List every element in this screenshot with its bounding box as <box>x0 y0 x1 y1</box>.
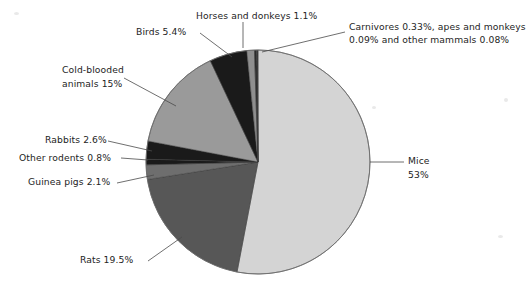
slice-label-horses-and-donkeys: Horses and donkeys 1.1% <box>196 10 317 22</box>
slice-label-other-rodents: Other rodents 0.8% <box>19 152 111 164</box>
slice-label-guinea-pigs: Guinea pigs 2.1% <box>28 176 110 188</box>
slice-label-cold-blooded-line2: animals 15% <box>62 78 122 90</box>
slice-label-cold-blooded-line1: Cold-blooded <box>62 64 124 76</box>
slice-label-mice-line1: Mice <box>408 155 430 167</box>
pie-chart: Horses and donkeys 1.1% Carnivores 0.33%… <box>0 0 529 285</box>
slice-label-rats: Rats 19.5% <box>80 254 133 266</box>
leader-line-birds <box>200 33 232 57</box>
slice-label-carnivores-group-line2: 0.09% and other mammals 0.08% <box>349 34 509 46</box>
pie-slice-group <box>146 50 370 274</box>
slice-label-mice-line2: 53% <box>408 169 429 181</box>
slice-label-birds: Birds 5.4% <box>136 26 186 38</box>
leader-line-cold-blooded <box>124 78 176 106</box>
leader-line-rabbits <box>108 141 152 151</box>
leader-line-carnivores-group <box>262 32 345 52</box>
leader-line-rats <box>148 237 182 261</box>
leader-line-other-rodents <box>121 158 148 160</box>
slice-label-rabbits: Rabbits 2.6% <box>45 134 107 146</box>
slice-label-carnivores-group-line1: Carnivores 0.33%, apes and monkeys <box>349 21 526 33</box>
